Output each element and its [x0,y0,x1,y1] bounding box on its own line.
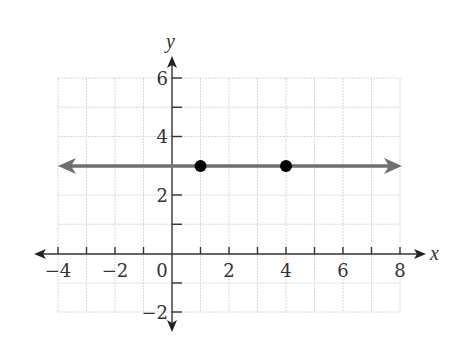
line-y-equals-3 [58,158,402,174]
x-tick-label: −2 [102,260,129,281]
x-tick-label: 8 [394,260,405,281]
point-4-3 [280,160,292,172]
y-tick-label: 2 [157,185,168,206]
x-tick-label: −4 [45,260,72,281]
point-1-3 [195,160,207,172]
coordinate-plane: −4 −2 0 2 4 6 8 6 4 2 −2 x y [0,0,466,357]
x-tick-label: 0 [156,260,167,281]
y-tick-label: −2 [141,302,168,323]
y-tick-label: 4 [157,126,168,147]
x-tick-label: 2 [223,260,234,281]
x-axis-label: x [429,242,439,264]
y-tick-label: 6 [157,68,168,89]
x-tick-label: 4 [280,260,291,281]
y-axis [172,60,182,328]
x-axis [42,247,418,254]
x-tick-label: 6 [337,260,348,281]
y-axis-label: y [164,30,175,53]
